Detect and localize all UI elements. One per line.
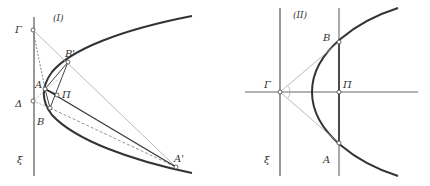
figure-1: (I) Γ Δ ξ B' A Π B A'	[14, 13, 192, 176]
label-gamma: Γ	[14, 24, 23, 35]
label-b-2: B	[322, 32, 330, 43]
chord-a-aprime	[45, 89, 176, 167]
label-b-prime: B'	[64, 48, 75, 59]
label-a-2: A	[322, 154, 330, 165]
label-b: B	[36, 116, 44, 127]
point-pi	[55, 93, 59, 97]
label-delta: Δ	[14, 98, 22, 109]
label-xi: ξ	[17, 154, 23, 165]
point-a-2	[337, 141, 341, 145]
figure-2: (II) Γ Π B A ξ	[245, 8, 418, 176]
label-gamma-2: Γ	[263, 79, 272, 90]
dashed-line-delta-b	[33, 101, 50, 108]
tangent-gamma-a	[280, 92, 339, 143]
point-gamma-2	[278, 90, 282, 94]
point-gamma	[31, 28, 35, 32]
point-a	[43, 87, 47, 91]
point-b-2	[337, 40, 341, 44]
point-b-prime	[66, 60, 70, 64]
point-a-prime	[174, 165, 178, 169]
label-xi-2: ξ	[264, 154, 270, 165]
label-pi: Π	[61, 89, 71, 100]
tangent-gamma-b	[280, 42, 339, 92]
figure-1-title: (I)	[53, 13, 64, 23]
figure-2-title: (II)	[293, 10, 308, 20]
label-pi-2: Π	[342, 79, 352, 90]
dashed-line-b-aprime	[50, 108, 176, 167]
point-delta	[31, 99, 35, 103]
point-pi-2	[337, 90, 341, 94]
diagram-canvas: (I) Γ Δ ξ B' A Π B A' (II) Γ Π B	[0, 0, 430, 186]
label-a: A	[34, 79, 42, 90]
point-b	[48, 106, 52, 110]
label-a-prime: A'	[173, 153, 184, 164]
